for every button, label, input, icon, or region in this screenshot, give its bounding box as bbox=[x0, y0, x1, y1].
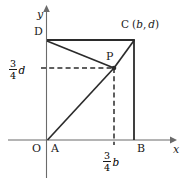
fraction-variable-d: d bbox=[19, 64, 26, 76]
point-label-c: C bbox=[121, 18, 129, 30]
y-axis-label: y bbox=[37, 9, 43, 20]
c-var-b: b bbox=[136, 18, 143, 30]
point-label-c-group: C(b,d) bbox=[121, 19, 159, 30]
point-label-d: D bbox=[34, 26, 43, 37]
point-label-b: B bbox=[137, 143, 145, 154]
fraction-variable-b: b bbox=[113, 156, 120, 168]
tick-label-three-quarters-d: 3 4 d bbox=[9, 59, 25, 80]
fraction-denominator: 4 bbox=[104, 162, 110, 172]
fraction-numerator: 3 bbox=[104, 151, 110, 161]
x-axis-label: x bbox=[173, 144, 179, 155]
point-label-a: A bbox=[51, 143, 59, 154]
fraction-three-quarters-y: 3 4 bbox=[9, 59, 17, 80]
fraction-numerator: 3 bbox=[10, 59, 16, 69]
c-var-d: d bbox=[148, 18, 155, 30]
c-paren-close: ) bbox=[155, 18, 159, 30]
fraction-three-quarters-x: 3 4 bbox=[103, 151, 111, 172]
c-comma: , bbox=[143, 18, 146, 30]
geometry-figure: D C(b,d) P O A B y x 3 4 d 3 4 b bbox=[0, 0, 185, 187]
segment-dp bbox=[47, 41, 114, 68]
segment-pc bbox=[114, 41, 134, 69]
y-axis bbox=[43, 5, 50, 178]
fraction-denominator: 4 bbox=[10, 70, 16, 80]
point-marker-p bbox=[112, 66, 117, 71]
point-label-o: O bbox=[32, 143, 41, 154]
tick-label-three-quarters-b: 3 4 b bbox=[103, 151, 119, 172]
point-label-p: P bbox=[106, 51, 113, 62]
segment-ap bbox=[48, 68, 115, 140]
